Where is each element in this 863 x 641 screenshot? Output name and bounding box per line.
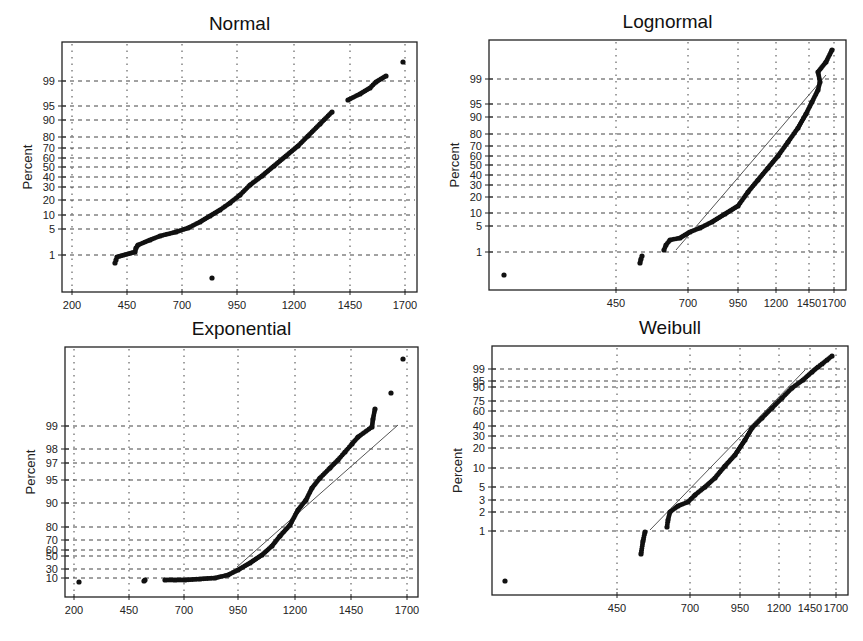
- data-point: [639, 253, 644, 258]
- x-tick-label: 1700: [395, 604, 419, 616]
- x-tick-label: 700: [173, 299, 191, 311]
- y-tick-label: 3: [479, 494, 485, 506]
- y-tick-label: 70: [43, 142, 55, 154]
- y-axis-label: Percent: [447, 142, 462, 187]
- y-tick-label: 97: [46, 457, 58, 469]
- y-tick-label: 5: [49, 223, 55, 235]
- data-point: [388, 390, 393, 395]
- y-tick-label: 70: [470, 140, 482, 152]
- chart-title: Weibull: [639, 317, 701, 338]
- y-tick-label: 10: [470, 207, 482, 219]
- y-tick-label: 20: [473, 442, 485, 454]
- x-tick-label: 1200: [283, 604, 307, 616]
- x-tick-label: 950: [229, 604, 247, 616]
- y-tick-label: 95: [46, 474, 58, 486]
- data-points: [501, 47, 834, 277]
- chart-title: Normal: [209, 13, 270, 34]
- y-tick-label: 5: [479, 481, 485, 493]
- y-tick-label: 10: [43, 209, 55, 221]
- data-points: [112, 59, 405, 280]
- lognormal-chart: Lognormal4507009501200145017001510203040…: [447, 11, 846, 309]
- probability-plots-canvas: Normal2004507009501200145017001510203040…: [0, 0, 863, 641]
- y-tick-label: 99: [473, 363, 485, 375]
- chart-title: Lognormal: [623, 11, 713, 32]
- x-tick-label: 1700: [822, 297, 846, 309]
- data-point: [501, 272, 506, 277]
- x-tick-label: 1450: [339, 604, 363, 616]
- x-tick-label: 950: [729, 297, 747, 309]
- y-tick-label: 40: [473, 420, 485, 432]
- x-tick-label: 200: [65, 604, 83, 616]
- y-tick-label: 90: [43, 114, 55, 126]
- weibull-chart: Weibull450700950120014501700123510203040…: [450, 317, 848, 614]
- x-tick-label: 450: [608, 602, 626, 614]
- x-tick-label: 700: [679, 297, 697, 309]
- x-tick-label: 1450: [797, 297, 821, 309]
- y-tick-label: 99: [470, 73, 482, 85]
- x-tick-label: 950: [731, 602, 749, 614]
- x-tick-label: 450: [607, 297, 625, 309]
- normal-chart: Normal2004507009501200145017001510203040…: [20, 13, 417, 311]
- y-tick-label: 90: [46, 497, 58, 509]
- data-point: [142, 577, 147, 582]
- y-tick-label: 20: [43, 194, 55, 206]
- y-tick-label: 90: [470, 111, 482, 123]
- x-tick-label: 1200: [767, 602, 791, 614]
- chart-title: Exponential: [192, 318, 291, 339]
- y-tick-label: 20: [470, 191, 482, 203]
- y-tick-label: 1: [476, 246, 482, 258]
- fit-line: [650, 370, 805, 530]
- x-tick-label: 950: [228, 299, 246, 311]
- data-point: [829, 353, 834, 358]
- y-tick-label: 99: [46, 420, 58, 432]
- y-tick-label: 30: [46, 563, 58, 575]
- data-point: [329, 109, 334, 114]
- x-tick-label: 1200: [282, 299, 306, 311]
- x-tick-label: 1700: [393, 299, 417, 311]
- x-tick-label: 700: [175, 604, 193, 616]
- y-tick-label: 10: [473, 462, 485, 474]
- y-tick-label: 95: [470, 98, 482, 110]
- x-tick-label: 700: [681, 602, 699, 614]
- y-tick-label: 80: [43, 131, 55, 143]
- y-tick-label: 2: [479, 506, 485, 518]
- x-tick-label: 1450: [338, 299, 362, 311]
- data-point: [400, 356, 405, 361]
- y-tick-label: 99: [43, 75, 55, 87]
- fit-line: [237, 425, 398, 567]
- data-point: [383, 73, 388, 78]
- data-point: [502, 578, 507, 583]
- exponential-chart: Exponential20045070095012001450170010305…: [23, 318, 419, 616]
- data-point: [642, 529, 647, 534]
- y-tick-label: 1: [49, 249, 55, 261]
- y-axis-label: Percent: [450, 448, 465, 493]
- x-tick-label: 1700: [824, 602, 848, 614]
- data-point: [400, 59, 405, 64]
- data-point: [209, 275, 214, 280]
- y-tick-label: 95: [43, 100, 55, 112]
- plot-frame: [492, 346, 848, 595]
- y-tick-label: 80: [46, 521, 58, 533]
- x-tick-label: 1200: [764, 297, 788, 309]
- data-point: [76, 579, 81, 584]
- y-tick-label: 98: [46, 443, 58, 455]
- y-tick-label: 75: [473, 395, 485, 407]
- y-tick-label: 80: [470, 128, 482, 140]
- plot-frame: [65, 347, 418, 597]
- y-tick-label: 1: [479, 525, 485, 537]
- data-point: [829, 47, 834, 52]
- x-tick-label: 450: [120, 604, 138, 616]
- y-axis-label: Percent: [23, 449, 38, 494]
- x-tick-label: 200: [63, 299, 81, 311]
- y-tick-label: 70: [46, 534, 58, 546]
- fit-line: [676, 75, 826, 250]
- x-tick-label: 450: [118, 299, 136, 311]
- y-axis-label: Percent: [20, 144, 35, 189]
- x-tick-label: 1450: [798, 602, 822, 614]
- data-point: [372, 406, 377, 411]
- y-tick-label: 95: [473, 375, 485, 387]
- y-tick-label: 5: [476, 220, 482, 232]
